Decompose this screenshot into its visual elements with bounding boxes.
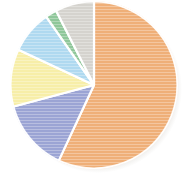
pie-chart-figure bbox=[0, 0, 191, 179]
pie-chart-canvas bbox=[0, 0, 191, 179]
